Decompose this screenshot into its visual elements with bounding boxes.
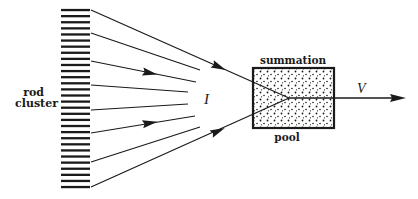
rod — [61, 137, 90, 139]
rod — [61, 131, 90, 133]
rod — [61, 82, 90, 84]
rod — [61, 88, 90, 90]
diagram-svg: rod cluster I summation pool V — [0, 0, 418, 199]
rod — [61, 94, 90, 96]
rod — [61, 119, 90, 121]
current-label: I — [203, 91, 210, 107]
rod — [61, 70, 90, 72]
arrowhead-icon — [390, 94, 406, 102]
rod — [61, 9, 90, 11]
rod-cluster — [61, 9, 90, 188]
rod — [61, 33, 90, 35]
rod — [61, 58, 90, 60]
rod — [61, 113, 90, 115]
fan-line — [91, 61, 196, 82]
rod — [61, 155, 90, 157]
fan-line — [91, 104, 188, 110]
rod — [61, 52, 90, 54]
rod — [61, 174, 90, 176]
rod — [61, 168, 90, 170]
rod — [61, 149, 90, 151]
fan-line — [91, 85, 188, 92]
fan-line — [91, 116, 195, 133]
rod — [61, 125, 90, 127]
cluster-label: cluster — [15, 97, 58, 110]
rod — [61, 100, 90, 102]
output-label: V — [357, 81, 367, 96]
rod — [61, 15, 90, 17]
rod — [61, 180, 90, 182]
rod — [61, 161, 90, 163]
pool-label: pool — [274, 131, 299, 143]
rod — [61, 76, 90, 78]
rod — [61, 46, 90, 48]
arrowhead-icon — [211, 60, 226, 70]
rod — [61, 64, 90, 66]
rod — [61, 27, 90, 29]
rod — [61, 186, 90, 188]
rod — [61, 39, 90, 41]
rod — [61, 21, 90, 23]
fan-line — [91, 127, 200, 162]
rod — [61, 143, 90, 145]
diagram-canvas: rod cluster I summation pool V — [0, 0, 418, 199]
rod — [61, 107, 90, 109]
summation-label: summation — [260, 54, 326, 66]
